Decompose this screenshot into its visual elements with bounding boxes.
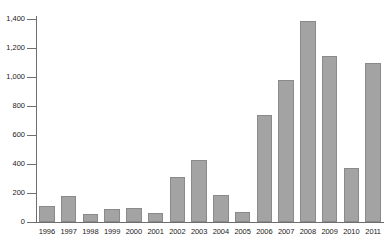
y-axis-tick-label: 800 [0,102,25,110]
y-axis-tick-label: 600 [0,131,25,139]
x-axis-label-2000: 2000 [123,228,145,236]
bar-2009[interactable] [322,56,338,222]
y-axis-tick-label: 1,400 [0,15,25,23]
bar-slot [232,0,254,222]
bar-2008[interactable] [300,21,316,222]
bar-1996[interactable] [39,206,55,222]
x-axis-label-2006: 2006 [254,228,276,236]
x-axis-label-2005: 2005 [232,228,254,236]
bar-slot [275,0,297,222]
bar-1998[interactable] [83,214,99,222]
x-axis-label-2003: 2003 [188,228,210,236]
x-axis-label-1998: 1998 [80,228,102,236]
x-axis-label-1996: 1996 [36,228,58,236]
x-axis-label-2002: 2002 [167,228,189,236]
y-axis-tick [27,48,36,49]
bar-1997[interactable] [61,196,77,222]
y-axis-tick [27,164,36,165]
bar-slot [80,0,102,222]
x-axis-label-2007: 2007 [275,228,297,236]
bar-slot [145,0,167,222]
bar-2001[interactable] [148,213,164,222]
bar-2007[interactable] [278,80,294,222]
x-axis-label-1997: 1997 [58,228,80,236]
bar-2004[interactable] [213,195,229,222]
bar-2005[interactable] [235,212,251,222]
bar-slot [319,0,341,222]
bar-1999[interactable] [104,209,120,222]
bar-slot [167,0,189,222]
y-axis-tick [27,222,36,223]
bar-2011[interactable] [365,63,381,222]
x-axis-label-2001: 2001 [145,228,167,236]
y-axis-tick-label: 1,000 [0,73,25,81]
y-axis-tick-label: 1,200 [0,44,25,52]
x-axis-label-1999: 1999 [101,228,123,236]
bar-2010[interactable] [344,168,360,222]
y-axis-tick [27,193,36,194]
x-axis-label-2011: 2011 [362,228,384,236]
bars-layer [36,0,384,222]
bar-slot [254,0,276,222]
bar-chart: 02004006008001,0001,2001,400 19961997199… [0,0,388,250]
x-axis-label-2009: 2009 [319,228,341,236]
x-axis-label-2010: 2010 [341,228,363,236]
bar-slot [188,0,210,222]
bar-slot [210,0,232,222]
y-axis-tick-label: 0 [0,218,25,226]
bar-slot [123,0,145,222]
x-axis-label-2004: 2004 [210,228,232,236]
y-axis-tick-label: 200 [0,189,25,197]
y-axis-tick [27,135,36,136]
bar-2006[interactable] [257,115,273,222]
bar-slot [341,0,363,222]
bar-slot [297,0,319,222]
x-axis-label-2008: 2008 [297,228,319,236]
y-axis-tick [27,19,36,20]
x-axis-line [36,222,384,223]
bar-slot [58,0,80,222]
y-axis-tick [27,77,36,78]
bar-2002[interactable] [170,177,186,222]
bar-2003[interactable] [191,160,207,222]
bar-slot [36,0,58,222]
bar-2000[interactable] [126,208,142,222]
y-axis-tick [27,106,36,107]
y-axis-tick-label: 400 [0,160,25,168]
bar-slot [362,0,384,222]
bar-slot [101,0,123,222]
x-axis-labels: 1996199719981999200020012002200320042005… [36,228,384,242]
